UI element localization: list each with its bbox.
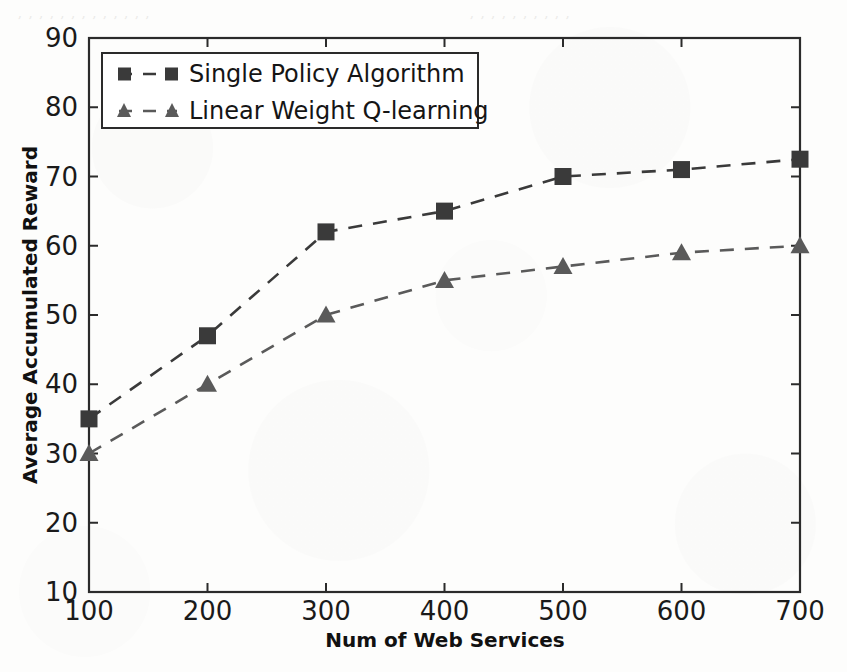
x-tick-label-400: 400 — [420, 596, 470, 626]
data-point — [792, 151, 809, 168]
legend-label-linear-weight-q-learning: Linear Weight Q-learning — [189, 97, 489, 125]
y-axis-title: Average Accumulated Reward — [18, 146, 42, 484]
data-point — [555, 168, 572, 185]
y-tick-label-80: 80 — [20, 92, 78, 122]
x-tick-label-100: 100 — [64, 596, 114, 626]
data-point — [554, 257, 573, 274]
x-tick-label-300: 300 — [301, 596, 351, 626]
legend-item-single-policy-algorithm: Single Policy Algorithm — [103, 55, 477, 93]
x-axis-title: Num of Web Services — [325, 628, 564, 652]
x-tick-label-500: 500 — [538, 596, 588, 626]
chart-figure: 102030405060708090 100200300400500600700… — [0, 0, 847, 672]
data-point — [198, 375, 217, 392]
data-point — [436, 203, 453, 220]
data-point — [199, 327, 216, 344]
legend-swatch-square-dashed — [115, 62, 181, 86]
chart-legend: Single Policy Algorithm Linear Weight Q-… — [101, 52, 479, 129]
legend-item-linear-weight-q-learning: Linear Weight Q-learning — [103, 92, 477, 130]
legend-label-single-policy-algorithm: Single Policy Algorithm — [189, 60, 465, 88]
data-series-layer — [80, 151, 810, 461]
y-tick-label-20: 20 — [20, 508, 78, 538]
data-point — [673, 161, 690, 178]
series-single-policy-algorithm — [81, 151, 809, 428]
figure-page: , , , , , , , , , , , , , , , , , , , , … — [0, 0, 847, 672]
data-point — [81, 410, 98, 427]
x-tick-label-200: 200 — [183, 596, 233, 626]
x-tick-label-600: 600 — [657, 596, 707, 626]
y-tick-label-90: 90 — [20, 23, 78, 53]
series-line — [89, 159, 800, 419]
legend-swatch-triangle-dashed — [115, 99, 181, 123]
data-point — [318, 223, 335, 240]
series-linear-weight-q-learning — [80, 236, 810, 461]
data-point — [672, 243, 691, 260]
x-tick-label-700: 700 — [775, 596, 825, 626]
